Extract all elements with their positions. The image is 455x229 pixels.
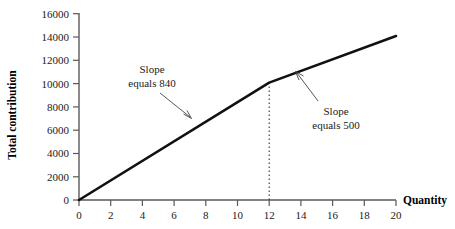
y-tick-label: 8000	[47, 101, 70, 113]
x-tick-label: 8	[203, 209, 209, 221]
x-tick-label: 4	[140, 209, 146, 221]
x-axis-title: Quantity	[403, 194, 447, 207]
total-contribution-line	[79, 36, 396, 200]
x-tick-label: 2	[108, 209, 114, 221]
y-tick-label: 12000	[42, 54, 70, 66]
x-tick-label: 6	[171, 209, 177, 221]
annotation-slope-500-line1: Slope	[323, 105, 348, 117]
y-tick-label: 0	[64, 194, 70, 206]
y-tick-label: 2000	[47, 171, 70, 183]
annotation-slope-500: Slope equals 500	[296, 72, 361, 132]
y-tick-label: 10000	[42, 78, 70, 90]
x-tick-label: 12	[264, 209, 275, 221]
y-tick-label: 6000	[47, 124, 70, 136]
x-axis-ticks	[79, 200, 396, 206]
chart-canvas: Total contribution 16000 14000 12000 100…	[0, 0, 455, 229]
annotation-slope-840-line2: equals 840	[128, 77, 176, 89]
x-tick-label: 10	[232, 209, 244, 221]
annotation-slope-840-line1: Slope	[139, 63, 164, 75]
y-axis-ticks	[73, 14, 79, 200]
y-tick-label: 16000	[42, 8, 70, 20]
y-tick-label: 14000	[42, 31, 70, 43]
y-axis-tick-labels: 16000 14000 12000 10000 8000 6000 4000 2…	[42, 8, 70, 206]
x-tick-label: 18	[359, 209, 371, 221]
annotation-slope-500-arrow	[297, 73, 318, 101]
y-tick-label: 4000	[47, 147, 70, 159]
annotation-slope-840-arrow	[160, 93, 190, 117]
x-axis-tick-labels: 0 2 4 6 8 10 12 14 16 18 20	[76, 209, 402, 221]
annotation-slope-840: Slope equals 840	[128, 63, 191, 119]
x-tick-label: 0	[76, 209, 82, 221]
x-tick-label: 16	[327, 209, 339, 221]
x-tick-label: 14	[295, 209, 307, 221]
total-contribution-chart: Total contribution 16000 14000 12000 100…	[0, 0, 455, 229]
annotation-slope-500-line2: equals 500	[312, 119, 360, 131]
x-tick-label: 20	[391, 209, 403, 221]
y-axis-title: Total contribution	[6, 70, 18, 160]
